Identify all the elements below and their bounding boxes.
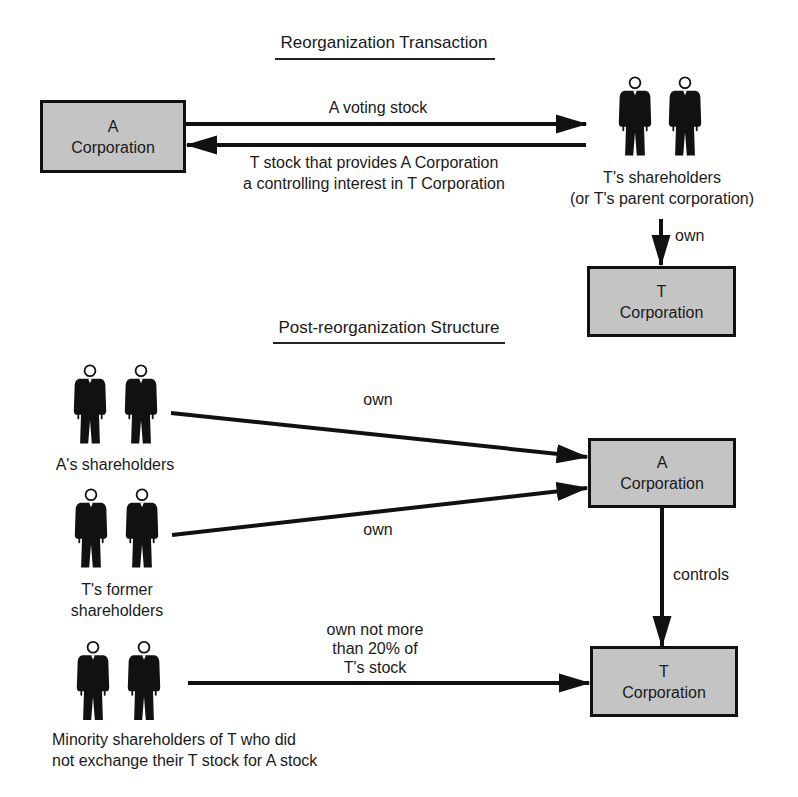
a-corporation-letter: A xyxy=(657,452,668,473)
t-corporation-box-top: T Corporation xyxy=(587,266,736,337)
arrow-a-shareholders-own-a xyxy=(171,413,587,457)
person-icon xyxy=(74,365,106,443)
person-icon xyxy=(619,77,651,155)
reorganization-title-underline xyxy=(275,58,495,60)
label-minority-own-line1: own not more xyxy=(327,620,424,640)
label-own-top: own xyxy=(675,226,704,246)
t-corporation-box-bottom: T Corporation xyxy=(590,646,738,717)
post-reorganization-title: Post-reorganization Structure xyxy=(278,318,499,338)
t-former-shareholders-label: T's former xyxy=(81,580,153,600)
a-shareholders-figures xyxy=(74,365,157,443)
t-corporation-letter: T xyxy=(657,281,667,302)
person-icon xyxy=(669,77,701,155)
label-own-a-shareholders: own xyxy=(363,390,392,410)
a-corporation-box-bottom: A Corporation xyxy=(588,438,736,508)
person-icon xyxy=(75,489,107,567)
post-reorganization-title-underline xyxy=(273,342,505,344)
label-minority-own-line3: T's stock xyxy=(344,658,407,678)
t-corporation-word: Corporation xyxy=(622,682,706,703)
reorganization-title: Reorganization Transaction xyxy=(281,33,488,53)
person-icon xyxy=(125,365,157,443)
label-own-t-former: own xyxy=(363,520,392,540)
t-shareholders-sublabel: (or T's parent corporation) xyxy=(570,189,754,209)
label-a-voting-stock: A voting stock xyxy=(329,98,428,118)
person-icon xyxy=(128,642,160,720)
t-former-shareholders-figures xyxy=(75,489,158,567)
t-corporation-letter: T xyxy=(659,661,669,682)
minority-shareholders-label: Minority shareholders of T who did xyxy=(52,730,296,750)
label-controls: controls xyxy=(673,565,729,585)
t-shareholders-label: T's shareholders xyxy=(603,168,721,188)
person-icon xyxy=(77,642,109,720)
label-t-stock-line2: a controlling interest in T Corporation xyxy=(243,174,505,194)
minority-shareholders-figures xyxy=(77,642,160,720)
minority-shareholders-sublabel: not exchange their T stock for A stock xyxy=(52,751,317,771)
a-corporation-box-top: A Corporation xyxy=(40,100,186,173)
label-minority-own-line2: than 20% of xyxy=(332,639,417,659)
t-shareholders-figures xyxy=(619,77,701,155)
a-corporation-letter: A xyxy=(108,116,119,137)
person-icon xyxy=(126,489,158,567)
a-corporation-word: Corporation xyxy=(620,473,704,494)
t-former-shareholders-sublabel: shareholders xyxy=(71,601,164,621)
a-corporation-word: Corporation xyxy=(71,137,155,158)
t-corporation-word: Corporation xyxy=(620,302,704,323)
a-shareholders-label: A's shareholders xyxy=(56,455,175,475)
label-t-stock-line1: T stock that provides A Corporation xyxy=(250,153,499,173)
